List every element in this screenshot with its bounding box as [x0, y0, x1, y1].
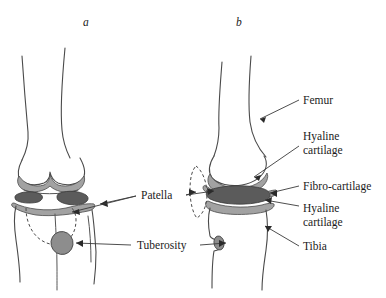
leader-tibia: [265, 226, 299, 246]
annotation-hyaline-upper-line1: Hyaline: [303, 130, 339, 143]
annotation-patella: Patella: [141, 189, 172, 201]
leader-femur: [260, 100, 299, 119]
hyaline-cartilage-femur-a: [18, 174, 85, 192]
femoral-condyle-b: [210, 156, 267, 186]
femur-outline-left-a: [22, 56, 28, 160]
fibula-outline-a: [88, 216, 91, 262]
femur-outline-right-a: [61, 48, 70, 158]
tibial-tuberosity-a: [49, 229, 76, 257]
leader-tuberosity-left: [76, 243, 131, 245]
annotation-hyaline-lower-line2: cartilage: [303, 216, 343, 229]
tibia-outline-right-b: [262, 210, 268, 290]
tibia-outline-left-a: [15, 206, 21, 282]
panel-label-b: b: [236, 16, 242, 28]
arrowhead-tuberosity-left: [76, 240, 83, 247]
panel-a-anterior-knee: [12, 48, 96, 290]
fibro-cartilage-lateral-a: [57, 191, 88, 205]
femur-outline-right-b: [249, 56, 266, 157]
panel-label-a: a: [83, 16, 89, 28]
knee-joint-diagram: a b: [0, 0, 386, 298]
annotation-femur: Femur: [303, 94, 333, 106]
panel-b-lateral-knee: [190, 56, 277, 290]
tibia-outline-right-a: [92, 210, 96, 284]
leader-lines: [72, 100, 299, 247]
annotation-hyaline-lower-line1: Hyaline: [303, 202, 339, 215]
annotation-fibro-cartilage: Fibro-cartilage: [303, 180, 371, 193]
fibro-cartilage-b: [206, 186, 270, 204]
femur-outline-left-b: [214, 62, 222, 156]
annotation-tuberosity: Tuberosity: [137, 239, 187, 252]
annotation-tibia: Tibia: [303, 240, 327, 252]
arrowhead-patella-right: [189, 189, 196, 196]
fibro-cartilage-medial-a: [15, 192, 43, 203]
annotation-hyaline-upper-line2: cartilage: [303, 144, 343, 157]
